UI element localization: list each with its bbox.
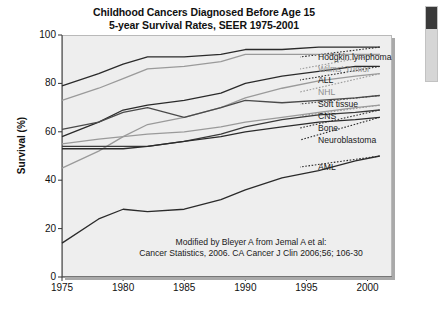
x-tick-label: 1990 bbox=[225, 282, 265, 293]
legend-item-label: Neuroblastoma bbox=[318, 135, 376, 145]
legend-item-label: Bone bbox=[318, 123, 338, 133]
attribution-line-1: Modified by Bleyer A from Jemal A et al: bbox=[120, 237, 382, 248]
legend-item-label: Wilms' Tumor bbox=[318, 64, 370, 74]
x-tick-label: 1985 bbox=[164, 282, 204, 293]
legend-item-label: AML bbox=[318, 162, 336, 172]
y-tick-label: 20 bbox=[26, 223, 56, 234]
title-line-2: 5-year Survival Rates, SEER 1975-2001 bbox=[0, 19, 408, 32]
y-tick-label: 80 bbox=[26, 77, 56, 88]
x-tick-label: 1995 bbox=[286, 282, 326, 293]
legend-item-label: Hodgkin lymphoma bbox=[318, 52, 392, 62]
y-tick-label: 40 bbox=[26, 174, 56, 185]
legend-item-label: Soft tissue bbox=[318, 99, 358, 109]
attribution-text: Modified by Bleyer A from Jemal A et al:… bbox=[120, 237, 382, 259]
chart-figure: Childhood Cancers Diagnosed Before Age 1… bbox=[0, 0, 444, 316]
legend-item-label: CNS bbox=[318, 111, 336, 121]
legend-item-label: ALL bbox=[318, 75, 333, 85]
y-tick-label: 60 bbox=[26, 126, 56, 137]
frame-shadow-right bbox=[392, 38, 395, 280]
plot-area: Survival (%) 020406080100 19751980198519… bbox=[0, 32, 408, 290]
y-tick-label: 100 bbox=[26, 29, 56, 40]
legend-item-label: NHL bbox=[318, 87, 335, 97]
x-tick-label: 1975 bbox=[42, 282, 82, 293]
scrollbar-thumb[interactable] bbox=[426, 7, 437, 29]
frame-shadow-bottom bbox=[65, 277, 395, 280]
chart-title: Childhood Cancers Diagnosed Before Age 1… bbox=[0, 6, 408, 32]
x-tick-label: 1980 bbox=[103, 282, 143, 293]
y-axis-label: Survival (%) bbox=[16, 101, 27, 191]
y-tick-label: 0 bbox=[26, 271, 56, 282]
title-line-1: Childhood Cancers Diagnosed Before Age 1… bbox=[0, 6, 408, 19]
x-tick-label: 2000 bbox=[348, 282, 388, 293]
scrollbar[interactable] bbox=[425, 6, 438, 82]
attribution-line-2: Cancer Statistics, 2006. CA Cancer J Cli… bbox=[120, 248, 382, 259]
